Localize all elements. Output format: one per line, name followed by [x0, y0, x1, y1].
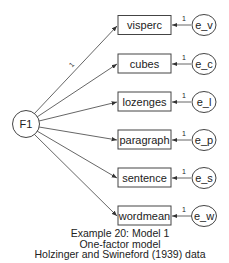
error-label: e_v: [195, 19, 213, 31]
indicator-wordmean[interactable]: wordmean: [118, 206, 171, 225]
error-weight-label: 1: [182, 15, 186, 22]
error-label: e_c: [195, 58, 213, 70]
error-label: e_s: [195, 172, 213, 184]
caption-line-3: Holzinger and Swineford (1939) data: [34, 248, 205, 260]
error-e_c[interactable]: e_c: [192, 54, 216, 75]
factor-label: F1: [20, 118, 33, 130]
indicator-cubes[interactable]: cubes: [118, 54, 171, 73]
indicator-lozenges[interactable]: lozenges: [118, 92, 171, 111]
loading-path-visperc: [34, 26, 117, 114]
latent-factor-f1[interactable]: F1: [13, 111, 40, 138]
error-label: e_w: [194, 210, 214, 222]
indicator-label: paragraph: [119, 134, 169, 146]
error-e_w[interactable]: e_w: [192, 206, 217, 227]
indicator-label: visperc: [127, 19, 162, 31]
path-diagram: 1 F1 visperc 1 e_v cubes 1 e_c lozenges …: [0, 0, 229, 263]
loading-path-paragraph: [39, 127, 117, 140]
error-weight-label: 1: [182, 168, 186, 175]
error-path-e_l: 1: [172, 92, 191, 102]
error-weight-label: 1: [182, 92, 186, 99]
fixed-loading-label: 1: [68, 61, 76, 69]
indicator-label: wordmean: [118, 210, 170, 222]
factor-loadings: 1: [34, 26, 117, 216]
error-path-e_w: 1: [172, 206, 191, 216]
indicator-label: cubes: [130, 58, 160, 70]
error-path-e_c: 1: [172, 54, 191, 64]
indicator-paragraph[interactable]: paragraph: [118, 130, 171, 149]
error-weight-label: 1: [182, 130, 186, 137]
error-e_l[interactable]: e_l: [192, 92, 216, 113]
error-weight-label: 1: [182, 206, 186, 213]
loading-path-wordmean: [34, 134, 117, 216]
error-label: e_l: [197, 96, 212, 108]
error-weight-label: 1: [182, 54, 186, 61]
error-e_s[interactable]: e_s: [192, 168, 216, 189]
indicator-label: sentence: [122, 172, 167, 184]
error-path-e_v: 1: [172, 15, 191, 25]
error-e_p[interactable]: e_p: [192, 130, 216, 151]
diagram-caption: Example 20: Model 1 One-factor model Hol…: [34, 227, 205, 260]
indicator-sentence[interactable]: sentence: [118, 168, 171, 187]
loading-path-cubes: [37, 64, 117, 117]
error-label: e_p: [195, 134, 213, 146]
error-path-e_p: 1: [172, 130, 191, 140]
indicator-label: lozenges: [122, 96, 167, 108]
error-path-e_s: 1: [172, 168, 191, 178]
loading-path-lozenges: [39, 102, 117, 121]
error-e_v[interactable]: e_v: [192, 15, 216, 36]
indicator-visperc[interactable]: visperc: [118, 16, 171, 35]
